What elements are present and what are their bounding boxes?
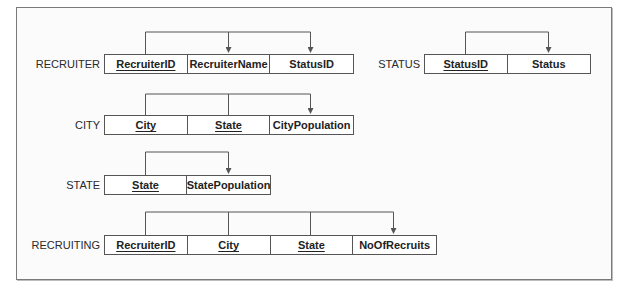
table-city: City State CityPopulation: [104, 115, 354, 135]
table-recruiting: RecruiterID City State NoOfRecruits: [104, 235, 437, 255]
column-label-pk: State: [215, 119, 242, 131]
column-cell: State: [188, 116, 271, 134]
column-label: Status: [532, 58, 566, 70]
column-cell: City: [105, 116, 188, 134]
column-cell: State: [271, 236, 354, 254]
column-cell: CityPopulation: [270, 116, 353, 134]
relation-name-recruiting: RECRUITING: [10, 235, 100, 255]
column-cell: NoOfRecruits: [353, 236, 436, 254]
column-label-pk: City: [135, 119, 156, 131]
column-cell: State: [105, 176, 187, 194]
column-cell: City: [188, 236, 271, 254]
relation-name-state: STATE: [10, 175, 100, 195]
column-label-pk: State: [298, 239, 325, 251]
column-label-pk: City: [218, 239, 239, 251]
column-label-pk: RecruiterID: [116, 239, 175, 251]
column-label-pk: RecruiterID: [116, 58, 175, 70]
column-label: StatePopulation: [187, 179, 271, 191]
column-label: StatusID: [289, 58, 334, 70]
relation-name-city: CITY: [10, 115, 100, 135]
table-state: State StatePopulation: [104, 175, 271, 195]
column-cell: RecruiterName: [188, 55, 271, 73]
table-status: StatusID Status: [424, 54, 591, 74]
column-cell: StatusID: [425, 55, 508, 73]
column-cell: RecruiterID: [105, 236, 188, 254]
column-label-pk: State: [132, 179, 159, 191]
column-cell: Status: [508, 55, 591, 73]
column-cell: RecruiterID: [105, 55, 188, 73]
column-label: CityPopulation: [273, 119, 351, 131]
column-label-pk: StatusID: [443, 58, 488, 70]
relation-name-recruiter: RECRUITER: [10, 54, 100, 74]
column-label: NoOfRecruits: [359, 239, 430, 251]
relation-name-status: STATUS: [330, 54, 420, 74]
column-cell: StatePopulation: [187, 176, 270, 194]
table-recruiter: RecruiterID RecruiterName StatusID: [104, 54, 354, 74]
column-label: RecruiterName: [189, 58, 267, 70]
